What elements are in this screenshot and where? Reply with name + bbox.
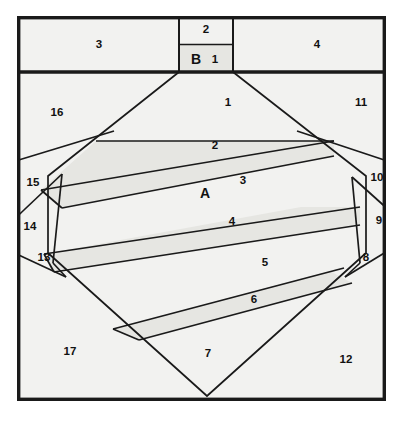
- label-region-16: 16: [51, 106, 64, 118]
- label-region-13: 13: [38, 251, 51, 263]
- label-top-strip-right: 4: [314, 38, 321, 50]
- label-region-2: 2: [212, 139, 218, 151]
- label-region-1: 1: [225, 96, 232, 108]
- label-region-8: 8: [363, 251, 370, 263]
- label-region-10: 10: [371, 171, 384, 183]
- top-box-lower-fill: [180, 45, 232, 71]
- label-region-7: 7: [205, 347, 211, 359]
- label-region-15: 15: [27, 176, 40, 188]
- label-top-box-upper: 2: [203, 23, 209, 35]
- label-region-6: 6: [251, 293, 257, 305]
- label-region-4: 4: [229, 215, 236, 227]
- label-region-5: 5: [262, 256, 269, 268]
- label-region-A: A: [200, 185, 210, 201]
- label-region-17: 17: [64, 345, 77, 357]
- region-fills: [19, 18, 385, 400]
- label-region-12: 12: [340, 353, 353, 365]
- label-region-9: 9: [376, 214, 382, 226]
- label-region-3: 3: [240, 174, 246, 186]
- label-region-11: 11: [355, 96, 368, 108]
- label-top-box-B: B: [191, 51, 201, 67]
- label-region-14: 14: [24, 220, 37, 232]
- diagram-figure: 3 4 2 B 1 1 2 3 A 4 5 6 7 8 9 10 11 12 1…: [0, 0, 403, 421]
- label-top-strip-left: 3: [96, 38, 102, 50]
- geometry-diagram-svg: 3 4 2 B 1 1 2 3 A 4 5 6 7 8 9 10 11 12 1…: [0, 0, 403, 421]
- label-top-box-1: 1: [212, 53, 219, 65]
